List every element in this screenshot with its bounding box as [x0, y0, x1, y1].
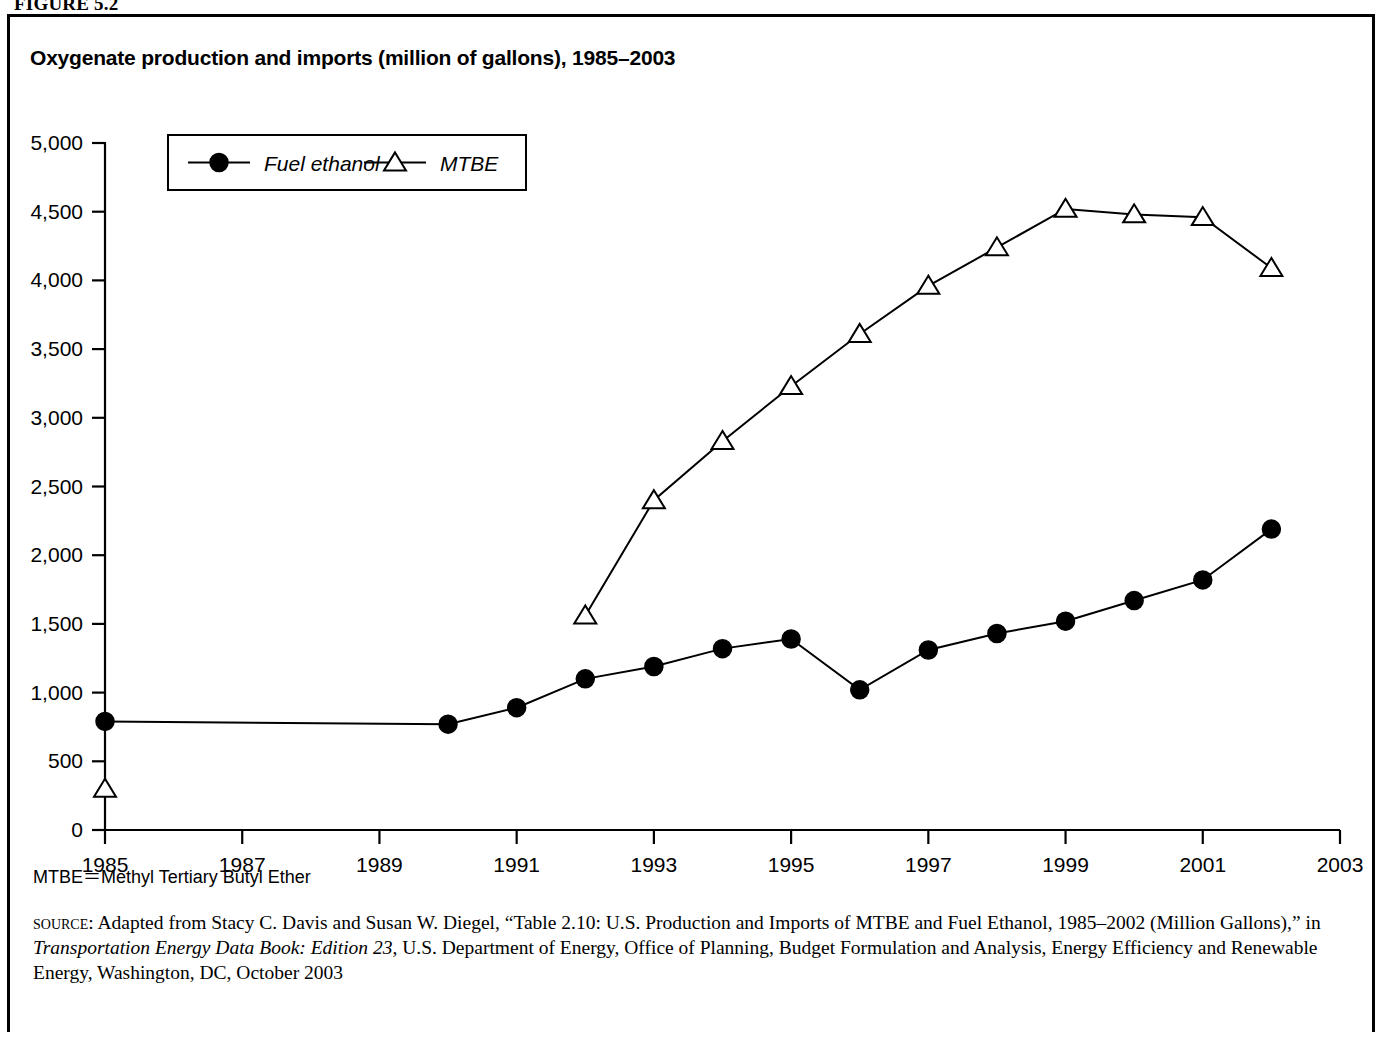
- x-tick-label: 1993: [631, 853, 678, 876]
- data-point-marker: [988, 625, 1006, 643]
- y-tick-label: 1,500: [30, 612, 83, 635]
- data-point-marker: [210, 154, 228, 172]
- data-point-marker: [96, 712, 114, 730]
- x-tick-label: 2001: [1179, 853, 1226, 876]
- y-tick-label: 5,000: [30, 131, 83, 154]
- data-point-marker: [782, 630, 800, 648]
- data-point-marker: [714, 640, 732, 658]
- abbreviation-note: MTBE＝Methyl Tertiary Butyl Ether: [33, 862, 311, 888]
- source-text-part1: Adapted from Stacy C. Davis and Susan W.…: [97, 912, 1320, 933]
- y-tick-label: 0: [71, 818, 83, 841]
- chart-plot-area: 05001,0001,5002,0002,5003,0003,5004,0004…: [0, 0, 1382, 900]
- data-point-marker: [919, 641, 937, 659]
- data-point-marker: [576, 670, 594, 688]
- data-point-marker: [1057, 612, 1075, 630]
- data-point-marker: [780, 376, 802, 394]
- y-tick-label: 1,000: [30, 681, 83, 704]
- chart-legend: Fuel ethanolMTBE: [168, 135, 526, 190]
- source-label: source: [33, 912, 88, 933]
- y-axis-ticks: 05001,0001,5002,0002,5003,0003,5004,0004…: [30, 131, 105, 841]
- series-polyline: [105, 529, 1271, 724]
- y-tick-label: 4,500: [30, 200, 83, 223]
- source-publication-title: Transportation Energy Data Book: Edition…: [33, 937, 392, 958]
- series-polyline: [585, 209, 1271, 616]
- data-point-marker: [1194, 571, 1212, 589]
- data-point-marker: [851, 681, 869, 699]
- data-point-marker: [986, 237, 1008, 255]
- x-tick-label: 1991: [493, 853, 540, 876]
- x-tick-label: 1999: [1042, 853, 1089, 876]
- legend-label: Fuel ethanol: [264, 152, 381, 175]
- y-tick-label: 3,000: [30, 406, 83, 429]
- legend-label: MTBE: [440, 152, 499, 175]
- data-point-marker: [574, 606, 596, 624]
- series-mtbe: [94, 199, 1282, 797]
- data-series-layer: [94, 199, 1282, 797]
- legend-item-fuel-ethanol: Fuel ethanol: [188, 152, 381, 175]
- data-point-marker: [1125, 592, 1143, 610]
- data-point-marker: [645, 657, 663, 675]
- x-tick-label: 1989: [356, 853, 403, 876]
- data-point-marker: [917, 276, 939, 294]
- data-point-marker: [849, 324, 871, 342]
- data-point-marker: [94, 779, 116, 797]
- line-chart-svg: 05001,0001,5002,0002,5003,0003,5004,0004…: [0, 0, 1382, 900]
- source-note: source: Adapted from Stacy C. Davis and …: [33, 910, 1343, 985]
- data-point-marker: [1262, 520, 1280, 538]
- x-tick-label: 2003: [1317, 853, 1364, 876]
- y-tick-label: 2,000: [30, 543, 83, 566]
- data-point-marker: [508, 699, 526, 717]
- y-tick-label: 2,500: [30, 475, 83, 498]
- data-point-marker: [439, 715, 457, 733]
- y-tick-label: 500: [48, 749, 83, 772]
- x-tick-label: 1995: [768, 853, 815, 876]
- data-point-marker: [1260, 258, 1282, 276]
- x-tick-label: 1997: [905, 853, 952, 876]
- y-tick-label: 3,500: [30, 337, 83, 360]
- data-point-marker: [1055, 199, 1077, 217]
- series-fuel-ethanol: [96, 520, 1280, 733]
- y-tick-label: 4,000: [30, 268, 83, 291]
